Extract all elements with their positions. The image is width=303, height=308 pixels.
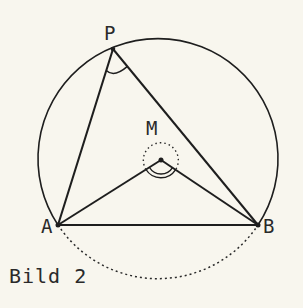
point-P — [111, 47, 116, 52]
figure-bild-2: P M A B Bild 2 — [0, 0, 303, 308]
angle-arc-P — [106, 66, 127, 73]
segment-MB — [161, 160, 258, 225]
angle-arc-M-inner — [150, 168, 173, 174]
point-B — [256, 223, 261, 228]
angle-arc-M-reflex-dotted — [143, 143, 178, 170]
segment-PB — [113, 49, 258, 225]
label-P: P — [104, 24, 115, 43]
figure-caption: Bild 2 — [9, 266, 87, 286]
geometry-diagram — [0, 0, 303, 308]
circle-lower-arc-dotted — [58, 225, 258, 279]
circle-upper-arc — [38, 39, 278, 225]
point-M — [159, 158, 164, 163]
label-A: A — [41, 217, 52, 236]
label-M: M — [146, 119, 157, 138]
label-B: B — [263, 217, 274, 236]
point-A — [56, 223, 61, 228]
segment-PA — [58, 49, 113, 225]
